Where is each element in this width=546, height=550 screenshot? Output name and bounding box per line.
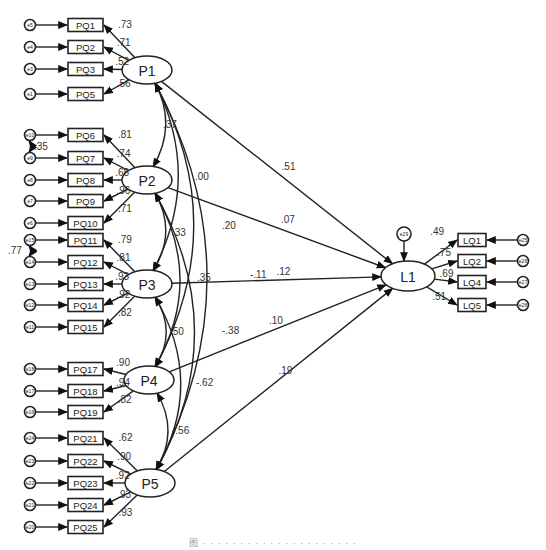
loading-path bbox=[434, 279, 457, 282]
error-term: e12 bbox=[25, 300, 36, 311]
observed-variable: PQ7 bbox=[68, 152, 103, 165]
error-term: e15 bbox=[25, 235, 36, 246]
observed-variable: PQ25 bbox=[68, 521, 103, 534]
loading-value: .82 bbox=[118, 307, 132, 318]
covariance-value: .20 bbox=[222, 220, 236, 231]
error-term: e13 bbox=[25, 279, 36, 290]
loading-value: .71 bbox=[118, 203, 132, 214]
covariance-value: .35 bbox=[197, 272, 211, 283]
observed-label: PQ12 bbox=[73, 257, 97, 268]
error-label: e22 bbox=[26, 480, 35, 486]
observed-label: PQ3 bbox=[76, 64, 95, 75]
loading-value: .79 bbox=[118, 234, 132, 245]
covariance-value: -.11 bbox=[250, 269, 267, 280]
loading-value: .90 bbox=[117, 451, 131, 462]
observed-variable: LQ2 bbox=[458, 255, 486, 268]
error-label: e6 bbox=[27, 220, 33, 226]
latent-label: P3 bbox=[138, 277, 155, 293]
observed-variable: PQ22 bbox=[68, 455, 103, 468]
error-label: e16 bbox=[26, 409, 35, 415]
error-term: e22 bbox=[25, 478, 36, 489]
observed-variable: PQ14 bbox=[68, 299, 103, 312]
observed-label: PQ1 bbox=[76, 20, 95, 31]
observed-variable: LQ4 bbox=[458, 276, 486, 289]
latent-label: L1 bbox=[400, 269, 416, 285]
observed-variable: PQ2 bbox=[68, 41, 103, 54]
observed-label: LQ1 bbox=[463, 235, 481, 246]
error-label: e24 bbox=[26, 435, 35, 441]
observed-label: LQ4 bbox=[463, 277, 481, 288]
error-term: e8 bbox=[25, 175, 36, 186]
error-label: e8 bbox=[27, 177, 33, 183]
observed-variable: PQ21 bbox=[68, 432, 103, 445]
path-coefficient: .51 bbox=[282, 161, 296, 172]
loading-value: .96 bbox=[116, 185, 130, 196]
figure-caption: 图 · · · · · · · · · · · · · · · · · · · … bbox=[0, 536, 546, 549]
observed-variable: PQ23 bbox=[68, 477, 103, 490]
loading-value: .92 bbox=[116, 289, 130, 300]
observed-label: PQ22 bbox=[73, 456, 97, 467]
error-label: e11 bbox=[26, 324, 34, 330]
latent-label: P2 bbox=[138, 173, 155, 189]
latent-label: P5 bbox=[141, 476, 158, 492]
error-term: e23 bbox=[25, 456, 36, 467]
observed-label: PQ9 bbox=[76, 196, 95, 207]
observed-variable: PQ24 bbox=[68, 499, 103, 512]
error-term: e6 bbox=[25, 218, 36, 229]
observed-variable: PQ8 bbox=[68, 174, 103, 187]
error-label: e12 bbox=[26, 302, 35, 308]
error-label: e14 bbox=[26, 259, 35, 265]
loading-value: .93 bbox=[117, 489, 131, 500]
error-label: e29 bbox=[400, 231, 409, 237]
observed-variable: LQ5 bbox=[458, 299, 486, 312]
error-term: e4 bbox=[25, 42, 36, 53]
loading-value: .49 bbox=[430, 226, 444, 237]
error-label: e18 bbox=[26, 366, 35, 372]
observed-label: PQ24 bbox=[73, 500, 97, 511]
observed-label: LQ5 bbox=[463, 300, 481, 311]
structural-path bbox=[168, 188, 386, 268]
observed-variable: LQ1 bbox=[458, 234, 486, 247]
latent-label: P1 bbox=[138, 63, 155, 79]
loading-value: .71 bbox=[117, 37, 131, 48]
observed-variable: PQ13 bbox=[68, 278, 103, 291]
error-covariance-arc bbox=[29, 141, 31, 153]
observed-label: PQ6 bbox=[76, 130, 95, 141]
observed-variable: PQ19 bbox=[68, 406, 103, 419]
observed-variable: PQ9 bbox=[68, 195, 103, 208]
error-label: e25 bbox=[519, 237, 528, 243]
error-label: e13 bbox=[26, 281, 35, 287]
error-label: e10 bbox=[26, 132, 35, 138]
observed-variable: PQ6 bbox=[68, 129, 103, 142]
error-label: e21 bbox=[26, 502, 35, 508]
error-label: e26 bbox=[519, 258, 528, 264]
observed-label: PQ21 bbox=[73, 433, 97, 444]
error-term: e21 bbox=[25, 500, 36, 511]
error-label: e27 bbox=[519, 279, 528, 285]
observed-label: LQ2 bbox=[463, 256, 481, 267]
covariance-arc bbox=[153, 193, 166, 271]
error-term: e27 bbox=[518, 277, 529, 288]
loading-value: .93 bbox=[115, 271, 129, 282]
observed-variable: PQ17 bbox=[68, 363, 103, 376]
observed-label: PQ15 bbox=[73, 322, 97, 333]
observed-label: PQ14 bbox=[73, 300, 97, 311]
observed-label: PQ17 bbox=[73, 364, 97, 375]
error-label: e20 bbox=[26, 524, 35, 530]
path-coefficient: .07 bbox=[281, 214, 295, 225]
observed-label: PQ11 bbox=[74, 235, 98, 246]
observed-label: PQ2 bbox=[76, 42, 95, 53]
error-label: e17 bbox=[26, 388, 35, 394]
loading-value: .81 bbox=[117, 252, 131, 263]
covariance-arc bbox=[156, 393, 168, 470]
loading-value: .93 bbox=[119, 507, 133, 518]
error-term: e9 bbox=[25, 153, 36, 164]
error-term: e24 bbox=[25, 433, 36, 444]
observed-label: PQ25 bbox=[73, 522, 97, 533]
observed-label: PQ18 bbox=[73, 386, 97, 397]
covariance-value: .00 bbox=[195, 171, 209, 182]
observed-variable: PQ18 bbox=[68, 385, 103, 398]
loading-value: .52 bbox=[115, 56, 129, 67]
error-term: e14 bbox=[25, 257, 36, 268]
error-term: e16 bbox=[25, 407, 36, 418]
